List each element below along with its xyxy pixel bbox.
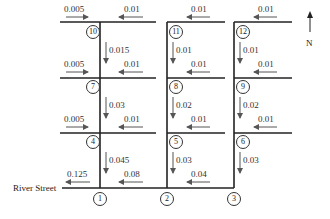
flow-label: 0.03: [176, 155, 192, 165]
flow-label: 0.01: [124, 59, 140, 69]
flow-label: 0.005: [64, 4, 84, 14]
street-label-river-street: River Street: [13, 183, 56, 193]
flow-label: 0.02: [176, 100, 192, 110]
flow-label: 0.01: [176, 45, 192, 55]
flow-label: 0.125: [67, 169, 87, 179]
flow-label: 0.01: [258, 59, 274, 69]
node-11: 11: [169, 25, 183, 39]
node-12: 12: [236, 25, 250, 39]
flow-label: 0.01: [191, 4, 207, 14]
flow-label: 0.03: [243, 155, 259, 165]
flow-label: 0.015: [109, 45, 129, 55]
node-6: 6: [236, 135, 250, 149]
node-7: 7: [86, 80, 100, 94]
flow-label: 0.01: [124, 4, 140, 14]
flow-label: 0.04: [191, 169, 207, 179]
node-9: 9: [236, 80, 250, 94]
flow-label: 0.005: [64, 114, 84, 124]
flow-label: 0.005: [64, 59, 84, 69]
node-10: 10: [86, 25, 100, 39]
node-3: 3: [227, 192, 241, 206]
north-label: N: [306, 38, 313, 48]
flow-label: 0.01: [258, 4, 274, 14]
flow-label: 0.01: [124, 114, 140, 124]
flow-label: 0.02: [243, 100, 259, 110]
node-2: 2: [160, 192, 174, 206]
flow-label: 0.045: [109, 155, 129, 165]
street-drainage-network-diagram: 10 11 12 7 8 9 4 5 6 1 2 3 0.005 0.01 0.…: [0, 0, 330, 219]
flow-label: 0.01: [191, 59, 207, 69]
flow-label: 0.08: [124, 169, 140, 179]
flow-label: 0.01: [258, 114, 274, 124]
node-4: 4: [86, 135, 100, 149]
flow-label: 0.03: [109, 100, 125, 110]
flow-label: 0.01: [243, 45, 259, 55]
node-8: 8: [169, 80, 183, 94]
node-1: 1: [93, 192, 107, 206]
north-arrow-icon: [307, 11, 313, 32]
flow-label: 0.01: [191, 114, 207, 124]
node-5: 5: [169, 135, 183, 149]
